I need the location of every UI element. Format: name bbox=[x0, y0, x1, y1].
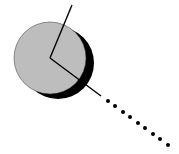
dot bbox=[121, 110, 125, 114]
dot bbox=[158, 137, 162, 141]
dot bbox=[128, 115, 132, 119]
dotted-line-extension bbox=[106, 99, 170, 147]
dot bbox=[106, 99, 110, 103]
dot bbox=[113, 104, 117, 108]
dot bbox=[166, 143, 170, 147]
dot bbox=[143, 126, 147, 130]
dot bbox=[136, 121, 140, 125]
dot bbox=[151, 132, 155, 136]
disc-diagram bbox=[0, 0, 179, 154]
